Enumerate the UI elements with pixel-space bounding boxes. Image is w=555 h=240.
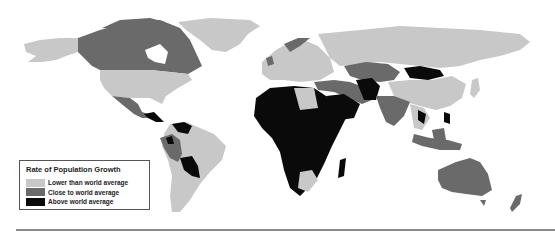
legend-swatch-high	[26, 198, 45, 206]
region-mexico	[112, 96, 150, 118]
region-india	[376, 96, 410, 126]
legend-label-high: Above world average	[48, 198, 113, 205]
region-usa	[100, 70, 192, 104]
region-mongolia	[404, 66, 444, 80]
region-madagascar	[338, 158, 346, 178]
legend-swatch-low	[26, 179, 45, 187]
region-new-zealand	[510, 194, 522, 212]
legend-item-low: Lower than world average	[26, 178, 145, 188]
region-tasmania	[480, 200, 486, 206]
legend-item-high: Above world average	[26, 197, 145, 207]
region-alaska	[24, 38, 78, 62]
region-russia	[318, 26, 530, 68]
legend-item-mid: Close to world average	[26, 188, 145, 198]
region-central-america	[144, 112, 164, 122]
region-australia	[438, 158, 492, 196]
region-philippines	[444, 112, 450, 124]
legend-swatch-mid	[26, 188, 45, 196]
region-borneo	[432, 128, 446, 140]
region-japan	[470, 78, 480, 98]
bottom-divider	[16, 229, 555, 231]
legend-title: Rate of Population Growth	[26, 165, 145, 174]
legend-label-mid: Close to world average	[48, 189, 119, 196]
map-legend: Rate of Population Growth Lower than wor…	[19, 160, 150, 210]
legend-label-low: Lower than world average	[48, 179, 128, 186]
